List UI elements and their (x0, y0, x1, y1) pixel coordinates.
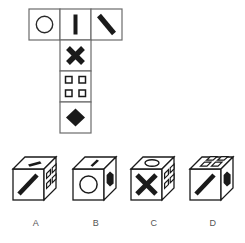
net-cell-circle (29, 9, 60, 40)
vertical-bar-icon (74, 15, 78, 35)
small-square-icon (79, 90, 86, 97)
option-a-cube (8, 150, 64, 216)
small-square-icon (66, 77, 73, 84)
small-square-icon (79, 77, 86, 84)
cube-net-puzzle: A B (0, 0, 245, 243)
option-d-label: D (185, 218, 241, 228)
option-c-label: C (126, 218, 182, 228)
net-cell-border (60, 71, 91, 102)
net-cell-four-squares (60, 71, 91, 102)
option-c-cube (126, 150, 182, 216)
net-cell-diamond (60, 102, 91, 133)
answer-options: A B (0, 150, 245, 243)
option-d-cube (185, 150, 241, 216)
option-b-label: B (68, 218, 124, 228)
net-svg-canvas (0, 0, 245, 150)
cube-net-diagram (0, 0, 245, 150)
cube-front-face (73, 169, 104, 200)
option-d[interactable]: D (185, 150, 241, 243)
net-cell-border (29, 9, 60, 40)
option-b-cube (68, 150, 124, 216)
option-a-label: A (8, 218, 64, 228)
option-a[interactable]: A (8, 150, 64, 243)
net-cell-diagonal-bar (91, 9, 122, 40)
net-cell-cross (60, 40, 91, 71)
net-cell-vertical-bar (60, 9, 91, 40)
small-square-icon (66, 90, 73, 97)
option-b[interactable]: B (68, 150, 124, 243)
option-c[interactable]: C (126, 150, 182, 243)
